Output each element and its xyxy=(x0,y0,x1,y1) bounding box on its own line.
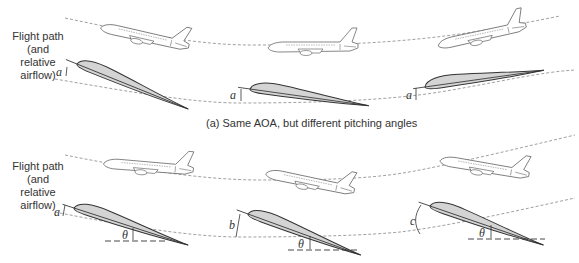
angle-label-a2: a xyxy=(230,88,236,102)
airplane-center-b-icon xyxy=(264,154,358,200)
airplane-right-b-icon xyxy=(439,141,532,184)
pitch-angle-label-b1: θ xyxy=(122,228,128,242)
airplane-right-icon xyxy=(434,8,528,54)
label-line: (and relative xyxy=(8,43,68,69)
airplane-left-b-icon xyxy=(103,144,195,179)
airfoil-left xyxy=(65,52,192,112)
panel-a-caption: (a) Same AOA, but different pitching ang… xyxy=(206,117,417,129)
angle-label-b3: c xyxy=(410,214,416,228)
pitch-angle-label-b3: θ xyxy=(479,226,485,240)
flight-path-label-b: Flight path (and relative airflow) xyxy=(8,160,68,212)
airplane-center-icon xyxy=(268,28,358,56)
pitch-angle-label-b2: θ xyxy=(298,237,304,251)
angle-label-a3: a xyxy=(406,88,412,102)
label-line: airflow) xyxy=(8,199,68,212)
diagram-canvas: a a a a θ b θ c xyxy=(0,0,579,263)
flight-path-label-a: Flight path (and relative airflow) xyxy=(8,30,68,82)
label-line: Flight path xyxy=(8,160,68,173)
angle-label-b2: b xyxy=(229,218,235,232)
label-line: airflow) xyxy=(8,69,68,82)
airfoil-center xyxy=(238,79,370,109)
panel-b: a θ b θ c θ xyxy=(54,135,575,258)
panel-a: a a a xyxy=(55,8,575,112)
label-line: (and relative xyxy=(8,173,68,199)
airplane-left-icon xyxy=(99,8,193,55)
label-line: Flight path xyxy=(8,30,68,43)
